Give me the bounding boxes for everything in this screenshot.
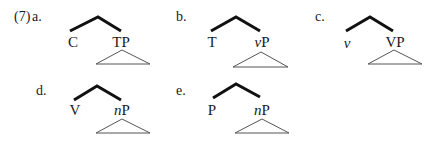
tree-b-head: T — [207, 35, 216, 50]
tree-a-complement: TP — [112, 35, 130, 50]
example-number: (7) — [14, 10, 30, 24]
tree-c-complement: VP — [385, 35, 404, 50]
item-label-a: a. — [32, 10, 42, 24]
item-label-d: d. — [36, 84, 47, 98]
tree-e-head: P — [208, 103, 216, 118]
tree-d-head: V — [70, 103, 81, 118]
tree-b-triangle — [233, 52, 288, 67]
tree-a-triangle — [96, 50, 150, 64]
tree-d-complement: nP — [114, 103, 130, 118]
tree-diagram-lines — [0, 0, 437, 145]
tree-c-triangle — [368, 50, 422, 64]
tree-e-complement: nP — [254, 103, 270, 118]
tree-e-triangle — [235, 119, 289, 133]
tree-e-branches — [213, 84, 289, 133]
tree-d-triangle — [96, 119, 150, 133]
tree-a-branches — [70, 17, 150, 64]
item-label-c: c. — [315, 10, 325, 24]
item-label-e: e. — [176, 84, 186, 98]
tree-c-branches — [346, 17, 422, 64]
tree-b-complement: vP — [254, 35, 269, 50]
tree-a-head: C — [68, 35, 78, 50]
tree-b-branches — [211, 17, 288, 67]
tree-c-head: v — [344, 36, 351, 51]
tree-d-branches — [74, 86, 150, 133]
item-label-b: b. — [176, 10, 187, 24]
